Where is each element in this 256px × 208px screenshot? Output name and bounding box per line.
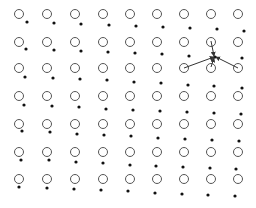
atom-dot	[23, 75, 26, 78]
lattice-site-circle	[153, 64, 162, 73]
atom-dot	[47, 158, 50, 161]
lattice-site-circle	[234, 175, 243, 184]
atom-dot	[50, 104, 53, 107]
lattice-site-circle	[234, 38, 243, 47]
lattice-site-circle	[234, 92, 243, 101]
atom-dot	[158, 109, 161, 112]
atom-dot	[240, 86, 243, 89]
lattice-site-circle	[180, 92, 189, 101]
atom-dot	[52, 21, 55, 24]
lattice-site-circle	[207, 64, 216, 73]
lattice-site-circle	[207, 120, 216, 129]
atom-dot	[208, 166, 211, 169]
atom-dot	[78, 77, 81, 80]
lattice-site-circle	[126, 175, 135, 184]
lattice-site-circle	[15, 92, 24, 101]
atom-dot	[186, 83, 189, 86]
atom-dot	[240, 56, 243, 59]
lattice-site-circle	[71, 120, 80, 129]
lattice-site-circle	[207, 175, 216, 184]
atom-dot	[206, 193, 209, 196]
lattice-site-circle	[207, 10, 216, 19]
atom-dot	[134, 24, 137, 27]
atom-dot	[24, 47, 27, 50]
atom-dot	[102, 133, 105, 136]
atom-dot	[45, 186, 48, 189]
lattice-site-circle	[43, 175, 52, 184]
atom-dot	[233, 194, 236, 197]
atom-dot	[105, 78, 108, 81]
lattice-diagram	[0, 0, 256, 208]
atom-dot	[212, 84, 215, 87]
atom-dot	[101, 161, 104, 164]
lattice-site-circle	[71, 175, 80, 184]
atom-dot	[160, 52, 163, 55]
atom-dot	[77, 105, 80, 108]
atom-dot	[107, 23, 110, 26]
lattice-site-circle	[15, 148, 24, 157]
atom-dot	[215, 27, 218, 30]
lattice-site-circle	[99, 64, 108, 73]
atom-dot	[79, 49, 82, 52]
lattice-site-circle	[15, 38, 24, 47]
atom-dot	[17, 185, 20, 188]
lattice-site-circle	[15, 175, 24, 184]
atom-dot	[19, 158, 22, 161]
atom-dot	[185, 110, 188, 113]
atom-dot	[159, 81, 162, 84]
lattice-site-circle	[71, 92, 80, 101]
lattice-site-circle	[180, 175, 189, 184]
atom-dot	[181, 165, 184, 168]
lattice-site-circle	[71, 38, 80, 47]
lattice-site-circle	[180, 120, 189, 129]
lattice-site-circle	[153, 38, 162, 47]
lattice-site-circle	[15, 10, 24, 19]
atom-dot	[25, 20, 28, 23]
lattice-site-circle	[126, 120, 135, 129]
lattice-site-circle	[43, 64, 52, 73]
lattice-site-circle	[153, 120, 162, 129]
lattice-sites	[15, 10, 243, 184]
atom-dot	[242, 29, 245, 32]
atom-dot	[75, 132, 78, 135]
atom-dot	[129, 134, 132, 137]
atom-dot	[106, 50, 109, 53]
atom-dot	[133, 51, 136, 54]
lattice-site-circle	[207, 148, 216, 157]
lattice-site-circle	[71, 148, 80, 157]
atom-dot	[212, 111, 215, 114]
lattice-site-circle	[234, 148, 243, 157]
lattice-site-circle	[43, 10, 52, 19]
atom-dot	[22, 103, 25, 106]
atom-dot	[128, 163, 131, 166]
lattice-site-circle	[43, 92, 52, 101]
lattice-site-circle	[126, 10, 135, 19]
lattice-site-circle	[180, 148, 189, 157]
lattice-site-circle	[153, 10, 162, 19]
lattice-site-circle	[234, 120, 243, 129]
lattice-site-circle	[99, 175, 108, 184]
lattice-site-circle	[180, 38, 189, 47]
atom-dot	[187, 54, 190, 57]
lattice-site-circle	[43, 120, 52, 129]
atom-dot	[237, 139, 240, 142]
lattice-site-circle	[126, 64, 135, 73]
lattice-site-circle	[43, 148, 52, 157]
lattice-site-circle	[180, 10, 189, 19]
lattice-site-circle	[43, 38, 52, 47]
atom-dot	[131, 108, 134, 111]
atom-dot	[72, 187, 75, 190]
atom-dot	[239, 112, 242, 115]
lattice-site-circle	[153, 175, 162, 184]
lattice-site-circle	[99, 92, 108, 101]
lattice-site-circle	[71, 64, 80, 73]
displacement-arrow	[211, 41, 214, 56]
displacement-arrow	[216, 57, 238, 68]
lattice-site-circle	[99, 120, 108, 129]
atom-dot	[183, 137, 186, 140]
atom-dot	[48, 130, 51, 133]
lattice-site-circle	[126, 38, 135, 47]
atom-dot	[79, 22, 82, 25]
atom-dot	[154, 164, 157, 167]
lattice-site-circle	[71, 10, 80, 19]
